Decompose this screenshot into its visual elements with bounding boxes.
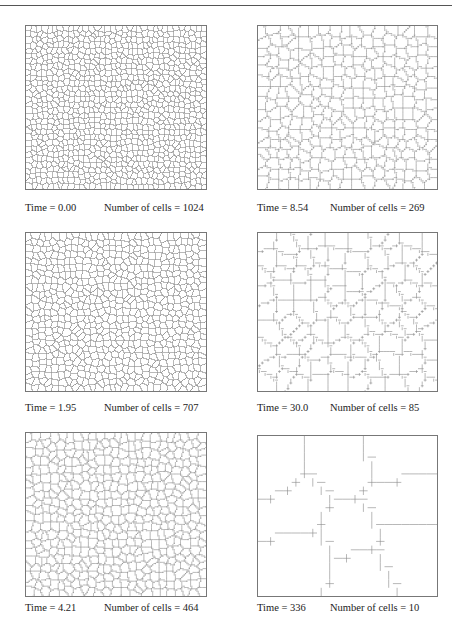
- cell-count-label: Number of cells = 707: [104, 402, 199, 413]
- time-label: Time = 336: [257, 602, 306, 613]
- voronoi-cells-image: [258, 436, 437, 596]
- voronoi-cells-image: [258, 233, 437, 391]
- top-rule: [0, 5, 452, 6]
- cell-panel-5: [257, 435, 438, 597]
- time-label: Time = 30.0: [257, 402, 308, 413]
- voronoi-cells-image: [26, 26, 206, 189]
- cell-panel-4: [25, 432, 207, 597]
- caption-0: Time = 0.00Number of cells = 1024: [25, 202, 76, 213]
- cell-count-label: Number of cells = 10: [330, 602, 419, 613]
- cell-panel-1: [257, 25, 438, 190]
- cell-count-label: Number of cells = 464: [104, 602, 199, 613]
- time-label: Time = 0.00: [25, 202, 76, 213]
- voronoi-cells-image: [26, 233, 206, 391]
- cell-panel-3: [257, 232, 438, 392]
- voronoi-cells-image: [26, 433, 206, 596]
- cell-panel-0: [25, 25, 207, 190]
- cell-count-label: Number of cells = 1024: [104, 202, 204, 213]
- cell-count-label: Number of cells = 269: [330, 202, 425, 213]
- cell-count-label: Number of cells = 85: [330, 402, 419, 413]
- caption-3: Time = 30.0Number of cells = 85: [257, 402, 308, 413]
- time-label: Time = 8.54: [257, 202, 308, 213]
- voronoi-cells-image: [258, 26, 437, 189]
- caption-1: Time = 8.54Number of cells = 269: [257, 202, 308, 213]
- time-label: Time = 4.21: [25, 602, 76, 613]
- caption-2: Time = 1.95Number of cells = 707: [25, 402, 76, 413]
- cell-panel-2: [25, 232, 207, 392]
- caption-5: Time = 336Number of cells = 10: [257, 602, 306, 613]
- caption-4: Time = 4.21Number of cells = 464: [25, 602, 76, 613]
- time-label: Time = 1.95: [25, 402, 76, 413]
